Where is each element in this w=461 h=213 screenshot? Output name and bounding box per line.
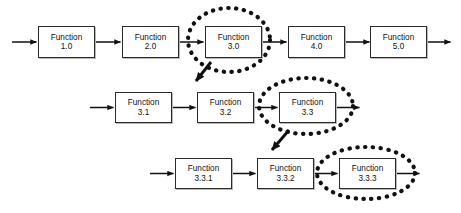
function-box-name: Function [270, 164, 301, 173]
function-box-number: 5.0 [393, 42, 404, 51]
function-box-fn-3-1[interactable]: Function 3.1 [115, 92, 172, 123]
function-box-fn-3-3-2[interactable]: Function 3.3.2 [257, 158, 314, 189]
function-box-number: 3.3.3 [358, 174, 376, 183]
function-box-name: Function [292, 98, 323, 107]
function-box-number: 4.0 [311, 42, 322, 51]
function-box-number: 3.1 [138, 108, 149, 117]
function-box-number: 3.0 [228, 42, 239, 51]
function-box-name: Function [218, 33, 249, 42]
function-box-fn-3-3[interactable]: Function 3.3 [279, 92, 336, 123]
function-box-fn-5-0[interactable]: Function 5.0 [370, 26, 427, 58]
function-box-fn-3-2[interactable]: Function 3.2 [197, 92, 254, 123]
function-box-number: 2.0 [145, 42, 156, 51]
function-box-fn-4-0[interactable]: Function 4.0 [288, 26, 345, 58]
function-box-name: Function [352, 164, 383, 173]
function-box-number: 3.3.2 [276, 174, 294, 183]
function-box-fn-3-3-1[interactable]: Function 3.3.1 [175, 158, 232, 189]
function-box-fn-2-0[interactable]: Function 2.0 [122, 26, 179, 58]
function-box-name: Function [128, 98, 159, 107]
function-box-fn-3-0[interactable]: Function 3.0 [205, 26, 262, 58]
function-box-name: Function [135, 33, 166, 42]
function-box-name: Function [188, 164, 219, 173]
diagram-canvas: Function 1.0 Function 2.0 Function 3.0 F… [0, 0, 461, 213]
function-box-name: Function [383, 33, 414, 42]
decomposition-arrow-3-3 [272, 130, 289, 150]
function-box-name: Function [210, 98, 241, 107]
function-box-name: Function [51, 33, 82, 42]
function-box-number: 3.3.1 [194, 174, 212, 183]
function-box-number: 3.2 [220, 108, 231, 117]
function-box-number: 1.0 [61, 42, 72, 51]
function-box-name: Function [301, 33, 332, 42]
function-box-fn-3-3-3[interactable]: Function 3.3.3 [339, 158, 396, 189]
function-box-number: 3.3 [302, 108, 313, 117]
function-box-fn-1-0[interactable]: Function 1.0 [38, 26, 95, 58]
